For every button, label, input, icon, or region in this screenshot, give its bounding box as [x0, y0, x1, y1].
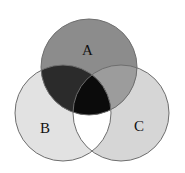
venn-diagram: A B C [0, 0, 185, 173]
set-a-label: A [82, 42, 93, 58]
set-b-label: B [40, 120, 50, 136]
set-c-label: C [134, 118, 144, 134]
